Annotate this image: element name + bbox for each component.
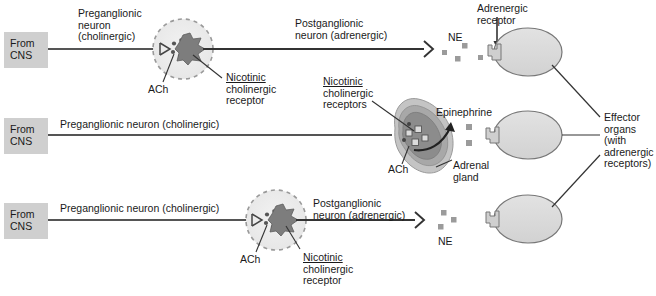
row-2-receptor-notch bbox=[486, 127, 499, 143]
row-1-ach-dot bbox=[172, 41, 176, 45]
row-3-ne-label: NE bbox=[438, 236, 453, 248]
row-1-ne-square bbox=[455, 56, 461, 62]
chromaffin-receptor bbox=[406, 130, 412, 136]
row-1-nicotinic-word: Nicotinic bbox=[226, 72, 266, 84]
row-3-postganglionic-label: Postganglionic neuron (adrenergic) bbox=[313, 198, 405, 221]
row-1-cns-label: From CNS bbox=[4, 38, 35, 61]
row-1-receptor-word: receptor bbox=[226, 95, 265, 107]
row-3-ach-label: ACh bbox=[240, 254, 260, 266]
row-3-ach-dot bbox=[264, 221, 268, 225]
chromaffin-receptor bbox=[412, 139, 419, 146]
row-3-ach-dot bbox=[265, 212, 269, 216]
row-2-cns-label: From CNS bbox=[4, 124, 35, 147]
diagram-canvas: From CNS Preganglionic neuron (cholinerg… bbox=[0, 0, 656, 296]
epinephrine-square bbox=[466, 140, 472, 146]
row-1-ne-square bbox=[442, 50, 447, 55]
row-2-ach-dot bbox=[402, 138, 406, 142]
row-2-receptors-word: receptors bbox=[323, 99, 367, 111]
row-1-adrenergic-receptor-word: receptor bbox=[477, 15, 516, 27]
row-3-ne-square bbox=[441, 210, 447, 216]
row-1-effector-organ bbox=[494, 28, 562, 76]
row-1-postganglionic-label: Postganglionic neuron (adrenergic) bbox=[295, 18, 387, 41]
row-1-ne-square bbox=[462, 43, 468, 49]
row-2-cns-box: From CNS bbox=[4, 118, 48, 154]
row-2-ach-label: ACh bbox=[388, 164, 408, 176]
row-3-nicotinic-word: Nicotinic bbox=[303, 252, 343, 264]
epinephrine-square bbox=[466, 124, 472, 130]
row-3-cns-box: From CNS bbox=[4, 203, 48, 239]
chromaffin-receptor bbox=[415, 126, 422, 133]
row-1-ne-square bbox=[478, 55, 483, 60]
row-1-cns-box: From CNS bbox=[4, 32, 48, 68]
row-3-preganglionic-label: Preganglionic neuron (cholinergic) bbox=[60, 203, 219, 215]
row-2-nicotinic-word: Nicotinic bbox=[323, 76, 363, 88]
row-2-gland-word: gland bbox=[453, 172, 479, 184]
row-1-adrenergic-word: Adrenergic bbox=[477, 3, 528, 15]
row-2-ach-dot bbox=[407, 122, 411, 126]
row-3-effector-leader-line bbox=[552, 155, 600, 207]
row-2-epinephrine-label: Epinephrine bbox=[436, 107, 492, 119]
row-1-ne-label: NE bbox=[448, 32, 463, 44]
row-3-cns-label: From CNS bbox=[4, 209, 35, 232]
row-3-postganglionic-terminal-fork bbox=[415, 212, 424, 228]
chromaffin-receptor bbox=[422, 135, 428, 141]
row-2-adrenal-word: Adrenal bbox=[453, 160, 489, 172]
row-3-ne-square bbox=[438, 224, 444, 230]
effector-organs-label: Effector organs (with adrenergic recepto… bbox=[604, 112, 654, 170]
row-1-effector-leader-line bbox=[552, 65, 600, 117]
row-3-effector-organ bbox=[494, 195, 562, 243]
row-2-effector-organ bbox=[494, 111, 562, 159]
row-3-receptor-notch bbox=[486, 211, 499, 227]
row-1-preganglionic-label: Preganglionic neuron (cholinergic) bbox=[78, 8, 142, 43]
row-3-ne-square bbox=[451, 217, 457, 223]
row-1-postganglionic-terminal-fork bbox=[424, 41, 433, 57]
row-1-ach-label: ACh bbox=[148, 84, 168, 96]
row-1-ach-dot bbox=[171, 50, 175, 54]
row-3-receptor-word: receptor bbox=[303, 275, 342, 287]
row-2-preganglionic-label: Preganglionic neuron (cholinergic) bbox=[60, 119, 219, 131]
